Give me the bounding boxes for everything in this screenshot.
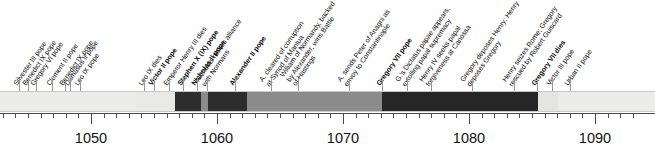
axis-minor-tick-1058 (192, 113, 193, 118)
axis-tick-label-1070: 1070 (327, 130, 359, 146)
axis-minor-tick-1093 (633, 113, 634, 118)
axis-minor-tick-1054 (141, 113, 142, 118)
axis-minor-tick-1069 (330, 113, 331, 118)
axis-minor-tick-1052 (116, 113, 117, 118)
bar-segment-nicholas-ii-reign (208, 92, 247, 111)
bar-segment-victor-ii-reign (175, 92, 200, 111)
axis-minor-tick-1044 (15, 113, 16, 118)
axis-minor-tick-1061 (230, 113, 231, 118)
axis-minor-tick-1051 (104, 113, 105, 118)
axis-minor-tick-1053 (129, 113, 130, 118)
axis-minor-tick-1049 (78, 113, 79, 118)
axis-major-tick-1070 (343, 113, 344, 124)
axis-minor-tick-1056 (167, 113, 168, 118)
axis-minor-tick-1081 (482, 113, 483, 118)
axis-minor-tick-1075 (406, 113, 407, 118)
axis-minor-tick-1043 (3, 113, 4, 118)
bar-segment-leo-ix-late-period (136, 92, 175, 111)
axis-minor-tick-1085 (532, 113, 533, 118)
axis-minor-tick-1063 (255, 113, 256, 118)
axis-minor-tick-1092 (620, 113, 621, 118)
axis-minor-tick-1078 (444, 113, 445, 118)
axis-tick-label-1080: 1080 (453, 130, 485, 146)
axis-minor-tick-1072 (368, 113, 369, 118)
axis-minor-tick-1082 (494, 113, 495, 118)
axis-minor-tick-1068 (318, 113, 319, 118)
axis-minor-tick-1076 (419, 113, 420, 118)
axis-major-tick-1060 (217, 113, 218, 124)
axis-minor-tick-1062 (242, 113, 243, 118)
axis-minor-tick-1091 (608, 113, 609, 118)
axis-minor-tick-1077 (431, 113, 432, 118)
event-label-line: envoy to Constantinople (343, 13, 399, 88)
axis-minor-tick-1066 (293, 113, 294, 118)
axis-minor-tick-1047 (53, 113, 54, 118)
axis-tick-label-1050: 1050 (75, 130, 107, 146)
axis-tick-label-1090: 1090 (579, 130, 611, 146)
axis-minor-tick-1089 (582, 113, 583, 118)
axis-minor-tick-1048 (66, 113, 67, 118)
axis-minor-tick-1045 (28, 113, 29, 118)
axis-minor-tick-1055 (154, 113, 155, 118)
timeline-chart: Silvester III popeBenedict IX popeGregor… (0, 0, 655, 157)
axis-minor-tick-1086 (545, 113, 546, 118)
axis-tick-label-1060: 1060 (201, 130, 233, 146)
axis-major-tick-1090 (595, 113, 596, 124)
axis-minor-tick-1087 (557, 113, 558, 118)
axis-major-tick-1050 (91, 113, 92, 124)
axis-minor-tick-1067 (305, 113, 306, 118)
bar-segment-alexander-ii-reign (247, 92, 382, 111)
timeline-axis: 10501060107010801090 (0, 113, 655, 157)
bar-segment-urban-ii-reign (558, 92, 632, 111)
axis-minor-tick-1057 (179, 113, 180, 118)
bar-segment-victor-iii-reign (538, 92, 558, 111)
axis-minor-tick-1084 (519, 113, 520, 118)
axis-minor-tick-1073 (381, 113, 382, 118)
axis-minor-tick-1064 (267, 113, 268, 118)
axis-major-tick-1080 (469, 113, 470, 124)
axis-minor-tick-1074 (393, 113, 394, 118)
axis-minor-tick-1079 (456, 113, 457, 118)
axis-minor-tick-1059 (204, 113, 205, 118)
axis-minor-tick-1046 (41, 113, 42, 118)
bar-segment-stephen-x-interval (201, 92, 209, 111)
bar-segment-gregory-vii-reign (382, 92, 538, 111)
axis-minor-tick-1088 (570, 113, 571, 118)
bar-segment-early-popes-period (0, 92, 136, 111)
axis-minor-tick-1083 (507, 113, 508, 118)
timeline-bar (0, 91, 655, 112)
axis-minor-tick-1071 (356, 113, 357, 118)
axis-minor-tick-1065 (280, 113, 281, 118)
